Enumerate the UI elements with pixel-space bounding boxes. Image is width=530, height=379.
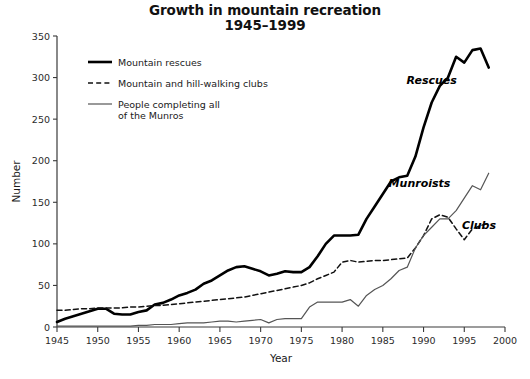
y-tick-label: 150 [32, 197, 50, 208]
x-tick-label: 2000 [493, 335, 517, 346]
x-tick-label: 1950 [86, 335, 110, 346]
x-tick-label: 1990 [411, 335, 435, 346]
series-annotations: RescuesMunroistsClubs [389, 74, 497, 232]
x-tick-label: 1980 [330, 335, 354, 346]
series-line-1 [57, 215, 489, 311]
series-annotation-2: Clubs [462, 219, 497, 232]
x-tick-label: 1975 [289, 335, 313, 346]
chart-canvas: 0501001502002503003501945195019551960196… [0, 0, 530, 379]
series-annotation-0: Rescues [407, 74, 458, 87]
x-tick-label: 1985 [371, 335, 395, 346]
x-tick-label: 1970 [249, 335, 273, 346]
x-tick-label: 1960 [167, 335, 191, 346]
y-axis-title: Number [10, 160, 22, 203]
legend-label-2: of the Munros [118, 110, 184, 121]
legend-label-1: Mountain and hill-walking clubs [118, 78, 268, 89]
y-tick-label: 100 [32, 238, 50, 249]
chart-root: Growth in mountain recreation 1945–1999 … [0, 0, 530, 379]
series-line-2 [57, 173, 489, 326]
y-tick-label: 300 [32, 72, 50, 83]
x-tick-label: 1995 [452, 335, 476, 346]
chart-legend: Mountain rescuesMountain and hill-walkin… [88, 57, 268, 121]
x-tick-label: 1945 [45, 335, 69, 346]
legend-label-0: Mountain rescues [118, 57, 202, 68]
y-tick-label: 50 [38, 280, 50, 291]
y-tick-label: 0 [44, 322, 50, 333]
x-tick-label: 1955 [126, 335, 150, 346]
y-tick-label: 350 [32, 31, 50, 42]
x-axis-title: Year [269, 352, 293, 364]
series-annotation-1: Munroists [389, 177, 451, 190]
x-tick-label: 1965 [208, 335, 232, 346]
y-tick-label: 200 [32, 155, 50, 166]
y-tick-label: 250 [32, 114, 50, 125]
legend-label-2: People completing all [118, 99, 220, 110]
